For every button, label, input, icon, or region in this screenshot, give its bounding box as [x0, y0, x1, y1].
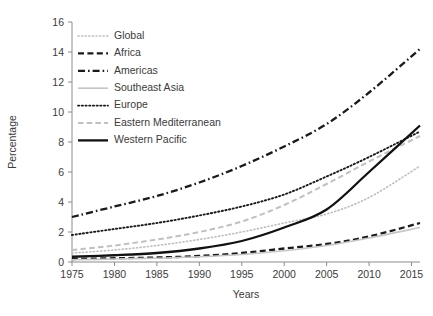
legend-label: Europe: [114, 98, 148, 110]
legend-label: Eastern Mediterranean: [114, 116, 221, 128]
x-tick-label: 1995: [230, 268, 254, 280]
x-tick-label: 2000: [273, 268, 297, 280]
y-tick-label: 6: [58, 166, 64, 178]
y-tick-label: 16: [52, 16, 64, 28]
y-tick-label: 4: [58, 196, 64, 208]
y-tick-label: 2: [58, 226, 64, 238]
legend-label: Southeast Asia: [114, 81, 184, 93]
y-axis-title: Percentage: [6, 115, 18, 169]
legend-item-global: Global: [78, 29, 144, 41]
y-tick-label: 14: [52, 46, 64, 58]
legend-item-western-pacific: Western Pacific: [78, 133, 187, 145]
x-axis-title: Years: [233, 288, 259, 300]
x-tick-label: 2005: [315, 268, 339, 280]
x-tick-label: 1975: [60, 268, 84, 280]
x-tick-label: 1980: [103, 268, 127, 280]
legend-item-europe: Europe: [78, 98, 148, 110]
chart-canvas: 0246810121416197519801985199019952000200…: [0, 0, 433, 316]
legend-label: Global: [114, 29, 144, 41]
legend-item-eastern-mediterranean: Eastern Mediterranean: [78, 116, 221, 128]
x-tick-label: 1990: [188, 268, 212, 280]
y-tick-label: 0: [58, 256, 64, 268]
y-tick-label: 8: [58, 136, 64, 148]
x-tick-label: 2015: [400, 268, 424, 280]
x-tick-label: 1985: [145, 268, 169, 280]
y-tick-label: 12: [52, 76, 64, 88]
series-line-eastern-mediterranean: [72, 136, 420, 250]
legend-item-africa: Africa: [78, 46, 141, 58]
y-tick-label: 10: [52, 106, 64, 118]
line-chart: 0246810121416197519801985199019952000200…: [0, 0, 433, 316]
legend-label: Africa: [114, 46, 141, 58]
legend-label: Americas: [114, 64, 158, 76]
legend-item-americas: Americas: [78, 64, 158, 76]
legend-label: Western Pacific: [114, 133, 187, 145]
x-tick-label: 2010: [357, 268, 381, 280]
legend-item-southeast-asia: Southeast Asia: [78, 81, 184, 93]
